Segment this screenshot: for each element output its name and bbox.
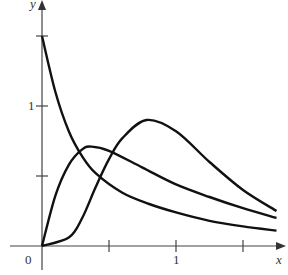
curve-1	[42, 36, 277, 231]
curve-2	[42, 147, 277, 246]
x-axis-label: x	[276, 252, 282, 268]
x-axis-arrow-icon	[276, 242, 286, 250]
y-axis-label: y	[30, 0, 36, 12]
origin-label: 0	[25, 252, 32, 268]
chart-canvas	[0, 0, 288, 275]
x-tick-label-1: 1	[173, 252, 180, 268]
y-axis-arrow-icon	[38, 0, 46, 10]
y-tick-label-1: 1	[28, 98, 35, 114]
axis-ticks	[36, 36, 243, 252]
curves	[42, 36, 277, 246]
